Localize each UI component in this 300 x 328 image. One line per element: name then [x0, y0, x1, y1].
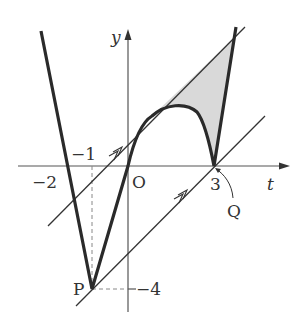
point-label-Q: Q — [227, 201, 241, 221]
y-axis-label: y — [110, 27, 121, 47]
tick-label-3: 3 — [210, 174, 221, 194]
origin-label: O — [132, 172, 146, 192]
diagram-svg: y t −2 −1 O 3 −4 P Q — [0, 0, 300, 328]
shaded-region — [150, 38, 234, 166]
point-label-P: P — [73, 279, 84, 299]
tick-label-neg1: −1 — [71, 144, 96, 164]
t-axis-arrow-icon — [279, 163, 290, 170]
t-axis-label: t — [267, 174, 274, 194]
y-axis-arrow-icon — [125, 29, 132, 40]
diagram-figure: y t −2 −1 O 3 −4 P Q — [0, 0, 300, 328]
tick-label-neg2: −2 — [32, 172, 57, 192]
tick-label-neg4: −4 — [136, 279, 161, 299]
